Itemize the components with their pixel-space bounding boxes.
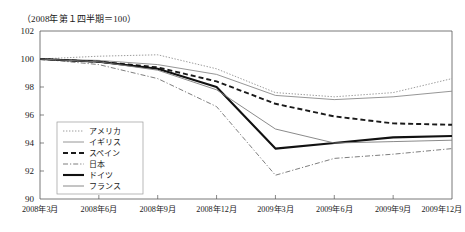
x-axis-tick-label: 2008年9月 bbox=[139, 204, 175, 214]
line-chart: 90929496981001022008年3月2008年6月2008年9月200… bbox=[0, 0, 465, 232]
legend-label-3: 日本 bbox=[89, 159, 105, 169]
y-axis-tick-label: 102 bbox=[21, 26, 35, 36]
chart-page: （2008年第１四半期＝100） 90929496981001022008年3月… bbox=[0, 0, 465, 232]
x-axis-tick-label: 2008年3月 bbox=[22, 204, 58, 214]
legend-label-2: スペイン bbox=[89, 149, 120, 158]
x-axis-tick-label: 2008年12月 bbox=[196, 204, 237, 214]
y-axis-tick-label: 100 bbox=[21, 54, 35, 64]
y-axis-tick-label: 92 bbox=[25, 166, 34, 176]
x-axis-tick-label: 2009年9月 bbox=[375, 204, 411, 214]
series-line-2 bbox=[40, 59, 452, 125]
x-axis-tick-label: 2009年3月 bbox=[257, 204, 293, 214]
x-axis-tick-label: 2009年6月 bbox=[316, 204, 352, 214]
chart-plot-area: 90929496981001022008年3月2008年6月2008年9月200… bbox=[0, 0, 465, 232]
y-axis-tick-label: 90 bbox=[25, 194, 35, 204]
y-axis-tick-label: 98 bbox=[25, 82, 35, 92]
legend-label-4: ドイツ bbox=[89, 171, 113, 180]
x-axis-tick-label: 2009年12月 bbox=[421, 204, 462, 214]
y-axis-tick-label: 94 bbox=[25, 138, 35, 148]
legend-label-5: フランス bbox=[89, 182, 121, 191]
legend-label-1: イギリス bbox=[89, 138, 121, 147]
legend-label-0: アメリカ bbox=[89, 127, 121, 136]
y-axis-tick-label: 96 bbox=[25, 110, 35, 120]
x-axis-tick-label: 2008年6月 bbox=[81, 204, 117, 214]
